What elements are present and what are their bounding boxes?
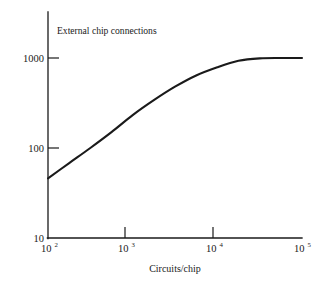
x-tick-label-1e2-mantissa: 10 [41,243,52,254]
x-tick-label-1e3-exponent: 3 [132,241,136,248]
x-tick-label-1e4-exponent: 4 [220,241,224,248]
plot-title: External chip connections [57,25,157,36]
x-tick-label-1e3-mantissa: 10 [118,243,129,254]
x-tick-label-1e2-exponent: 2 [55,241,59,248]
y-tick-label-1000: 1000 [23,53,44,64]
x-tick-label-1e4-mantissa: 10 [206,243,217,254]
x-tick-label-1e5-mantissa: 10 [294,243,305,254]
x-tick-label-1e5-exponent: 5 [308,241,312,248]
x-axis-title: Circuits/chip [149,263,201,274]
y-tick-label-100: 100 [28,143,44,154]
chart-svg: 1000 100 10 10 2 10 3 10 4 10 5 Circuits… [0,0,323,288]
chart-figure: 1000 100 10 10 2 10 3 10 4 10 5 Circuits… [0,0,323,288]
